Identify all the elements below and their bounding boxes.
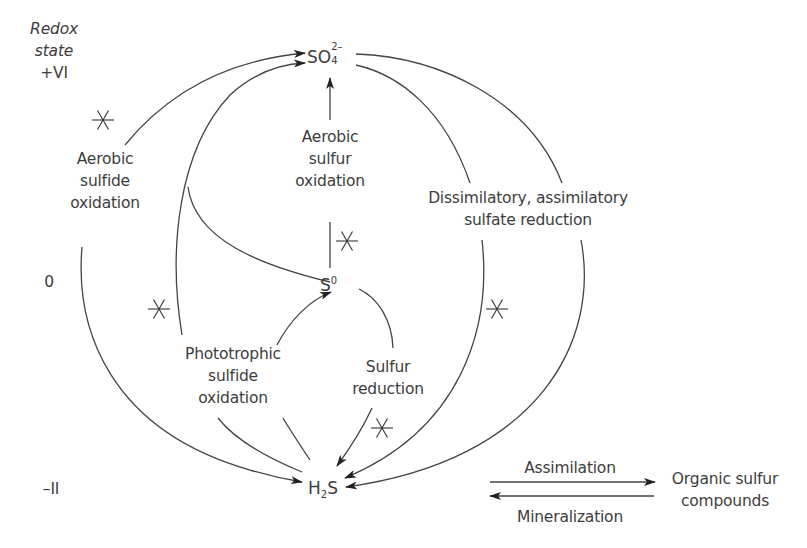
mineralization-label: Mineralization — [515, 506, 625, 528]
sulfur-reduction-lower — [337, 408, 372, 466]
sulfate-base: SO — [307, 47, 331, 67]
asterisk-marker-icon — [148, 300, 170, 319]
redox-level-minus-two: –II — [36, 478, 66, 500]
asterisk-marker-icon — [486, 300, 508, 319]
sulfur-reduction-upper — [359, 289, 393, 348]
aerobic-sulfide-oxidation-label: Aerobic sulfide oxidation — [60, 148, 150, 214]
phototrophic-sulfide-oxidation-label: Phototrophic sulfide oxidation — [173, 343, 293, 409]
sulfur-reduction-label: Sulfur reduction — [343, 356, 433, 400]
h2s-to-s0-arrow — [277, 292, 331, 345]
h2s-tail: S — [327, 478, 338, 498]
redox-title-line2: state — [28, 40, 80, 62]
asterisk-marker-icon — [92, 111, 114, 130]
sulfate-reduction-outer-upper — [356, 54, 562, 183]
redox-level-plus-six: +VI — [28, 62, 80, 84]
sulfate-charge: 2– — [331, 41, 342, 52]
sulfur-oxidation-state: 0 — [331, 275, 337, 286]
sulfate-species: SO2–4 — [307, 47, 351, 67]
sulfur-cycle-diagram — [0, 0, 807, 548]
h2s-base: H — [308, 478, 321, 498]
organic-line2: compounds — [665, 490, 785, 512]
organic-line1: Organic sulfur — [665, 468, 785, 490]
sulfate-subscript: 4 — [331, 55, 337, 66]
organic-sulfur-compounds: Organic sulfur compounds — [665, 468, 785, 512]
sulfur-to-sulfate-branch — [188, 187, 330, 282]
aerobic-sulfur-oxidation-label: Aerobic sulfur oxidation — [285, 126, 375, 192]
redox-level-zero: 0 — [34, 271, 64, 293]
phototrophic-to-sulfate-arrow — [176, 63, 305, 335]
asterisk-marker-icon — [371, 419, 393, 438]
sulfate-reduction-label: Dissimilatory, assimilatory sulfate redu… — [418, 187, 638, 231]
elemental-sulfur-species: S0 — [320, 275, 337, 295]
asterisk-marker-icon — [336, 232, 358, 251]
hydrogen-sulfide-species: H2S — [308, 478, 338, 500]
assimilation-label: Assimilation — [515, 457, 625, 479]
redox-title-line1: Redox — [28, 18, 80, 40]
redox-axis-title: Redox state — [28, 18, 80, 62]
sulfur-base: S — [320, 275, 331, 295]
phototrophic-lower-right — [283, 418, 310, 460]
